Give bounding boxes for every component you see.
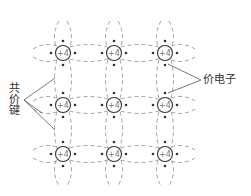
valence-leader-bottom [168,80,201,93]
valence-electron [176,104,179,107]
valence-electron [62,92,65,95]
atom-charge: +4 [108,150,120,159]
silicon-atom: +4 [101,92,128,119]
silicon-atom: +4 [50,92,77,119]
valence-electron [74,52,77,55]
valence-electron [164,165,167,168]
covalent-leader-top [24,78,55,100]
atom-charge: +4 [57,150,69,159]
valence-electron [164,64,167,67]
valence-electron [62,141,65,144]
atom-charge: +4 [159,150,171,159]
silicon-atom: +4 [101,141,128,168]
silicon-atom: +4 [101,40,128,67]
silicon-atom: +4 [50,141,77,168]
valence-electron [50,52,53,55]
valence-electron [125,104,128,107]
valence-electron [74,104,77,107]
valence-electron [113,92,116,95]
valence-electron [164,141,167,144]
silicon-atom: +4 [152,92,179,119]
valence-electron-label: 价电子 [203,74,236,85]
valence-electron [62,64,65,67]
valence-electron [62,116,65,119]
valence-electron [50,104,53,107]
valence-electron [50,153,53,156]
valence-electron [101,153,104,156]
atom-charge: +4 [159,49,171,58]
valence-electron [176,153,179,156]
atom-charge: +4 [159,101,171,110]
valence-electron [176,52,179,55]
valence-electron [164,116,167,119]
covalent-leader-mid [24,100,42,113]
valence-electron [113,141,116,144]
valence-electron [113,64,116,67]
silicon-lattice-diagram: +4+4+4+4+4+4+4+4+4 [0,0,251,196]
silicon-atom: +4 [152,141,179,168]
atom-charge: +4 [57,101,69,110]
silicon-atom: +4 [50,40,77,67]
valence-electron [101,52,104,55]
atom-charge: +4 [57,49,69,58]
valence-electron [152,104,155,107]
valence-electron [125,52,128,55]
valence-electron [113,165,116,168]
atom-charge: +4 [108,49,120,58]
valence-electron [74,153,77,156]
valence-electron [113,116,116,119]
valence-electron [62,40,65,43]
valence-electron [164,40,167,43]
valence-electron [125,153,128,156]
valence-electron [113,40,116,43]
silicon-atom: +4 [152,40,179,67]
valence-electron [62,165,65,168]
valence-leader-top [168,64,201,80]
valence-electron [101,104,104,107]
valence-electron [164,92,167,95]
atom-charge: +4 [108,101,120,110]
valence-electron [152,153,155,156]
valence-electron [152,52,155,55]
covalent-bond-label: 共价键 [7,82,19,115]
